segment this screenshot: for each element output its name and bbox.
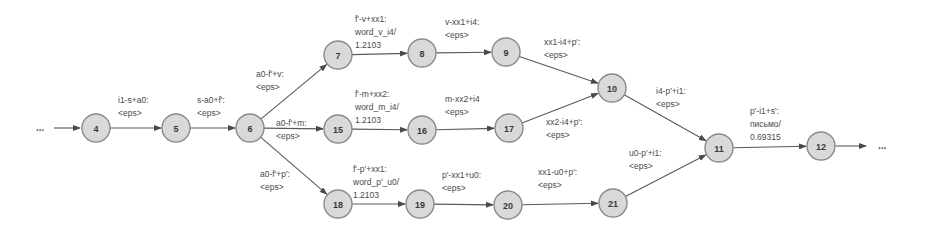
state-node-17: 17 (495, 114, 523, 142)
edge-label-7-8: f'-v+xx1:word_v_i4/1.2103 (354, 14, 397, 50)
state-node-18: 18 (324, 190, 352, 218)
state-label: 4 (93, 124, 98, 134)
end-ellipsis: ... (878, 140, 887, 151)
edge-20-21 (522, 203, 598, 204)
edge-label-19-20: p'-xx1+u0:<eps> (442, 170, 481, 193)
state-label: 15 (333, 125, 343, 135)
edge-label-line: p'-i1+s': (750, 106, 779, 116)
edge-label-line: word_p'_u0/ (352, 177, 400, 187)
edge-label-line: 1.2103 (353, 190, 379, 200)
edge-15-16 (352, 129, 407, 130)
edge-label-line: i1-s+a0: (118, 95, 148, 105)
edge-label-line: <eps> (445, 107, 469, 117)
state-node-21: 21 (599, 189, 627, 217)
state-label: 9 (503, 48, 508, 58)
edge-label-line: f'-p'+xx1: (353, 164, 387, 174)
edge-label-line: xx2-i4+p': (546, 117, 582, 127)
state-label: 16 (417, 126, 427, 136)
edge-label-line: <eps> (260, 182, 284, 192)
edge-label-line: a0-f'+m: (276, 118, 307, 128)
edge-label-line: <eps> (544, 50, 568, 60)
start-ellipsis: ... (36, 122, 45, 133)
edges (110, 52, 806, 205)
edge-label-6-18: a0-f'+p':<eps> (260, 169, 290, 192)
edge-label-line: xx1-u0+p': (538, 167, 577, 177)
edge-label-line: i4-p'+i1: (656, 86, 686, 96)
fst-diagram: ... i1-s+a0:<eps>s-a0+f':<eps>a0-f'+v:<e… (0, 0, 928, 237)
edge-label-line: письмо/ (750, 119, 782, 129)
edge-label-line: f'-m+xx2: (355, 89, 389, 99)
edge-label-line: word_m_i4/ (354, 102, 400, 112)
edge-label-line: <eps> (546, 130, 570, 140)
state-node-15: 15 (324, 115, 352, 143)
edge-label-line: m-xx2+i4 (445, 94, 480, 104)
state-node-16: 16 (408, 116, 436, 144)
state-node-12: 12 (807, 132, 835, 160)
state-node-20: 20 (494, 191, 522, 219)
state-node-7: 7 (324, 41, 352, 69)
edge-11-12 (733, 146, 806, 147)
edge-label-line: a0-f'+p': (260, 169, 290, 179)
state-label: 17 (504, 124, 514, 134)
edge-16-17 (436, 128, 494, 129)
edge-label-line: s-a0+f': (197, 95, 225, 105)
edge-label-15-16: f'-m+xx2:word_m_i4/1.2103 (354, 89, 400, 125)
state-label: 11 (714, 144, 724, 154)
edge-labels: i1-s+a0:<eps>s-a0+f':<eps>a0-f'+v:<eps>a… (118, 14, 782, 200)
edge-label-6-15: a0-f'+m:<eps> (276, 118, 307, 141)
edge-label-line: 0.69315 (750, 132, 781, 142)
state-label: 18 (333, 200, 343, 210)
edge-9-10 (519, 57, 598, 84)
edge-label-11-12: p'-i1+s':письмо/0.69315 (750, 106, 782, 142)
state-label: 7 (335, 51, 340, 61)
edge-label-line: p'-xx1+u0: (442, 170, 481, 180)
edge-label-line: <eps> (445, 30, 469, 40)
state-label: 21 (608, 199, 618, 209)
state-label: 12 (816, 142, 826, 152)
edge-label-8-9: v-xx1+i4:<eps> (445, 17, 479, 40)
edge-label-10-11: i4-p'+i1:<eps> (656, 86, 686, 109)
state-label: 5 (173, 124, 178, 134)
edge-label-line: <eps> (256, 82, 280, 92)
edge-label-line: <eps> (538, 180, 562, 190)
edge-label-line: v-xx1+i4: (445, 17, 479, 27)
edge-label-line: xx1-i4+p': (544, 37, 580, 47)
state-label: 19 (415, 200, 425, 210)
edge-label-line: 1.2103 (355, 115, 381, 125)
edge-6-15 (264, 128, 323, 129)
edge-label-line: a0-f'+v: (256, 69, 284, 79)
edge-label-line: u0-p'+i1: (629, 148, 662, 158)
state-node-10: 10 (598, 74, 626, 102)
edge-label-4-5: i1-s+a0:<eps> (118, 95, 148, 118)
state-label: 6 (247, 124, 252, 134)
state-node-11: 11 (705, 134, 733, 162)
edge-label-line: <eps> (629, 161, 653, 171)
edge-label-line: 1.2103 (355, 40, 381, 50)
edge-label-line: f'-v+xx1: (355, 14, 387, 24)
edge-label-20-21: xx1-u0+p':<eps> (538, 167, 577, 190)
state-node-5: 5 (162, 114, 190, 142)
state-label: 8 (419, 49, 424, 59)
edge-label-line: <eps> (656, 99, 680, 109)
edge-label-6-7: a0-f'+v:<eps> (256, 69, 284, 92)
state-label: 10 (607, 84, 617, 94)
state-node-4: 4 (82, 114, 110, 142)
edge-label-18-19: f'-p'+xx1:word_p'_u0/1.2103 (352, 164, 400, 200)
edge-7-8 (352, 53, 407, 54)
state-node-9: 9 (492, 38, 520, 66)
edge-19-20 (434, 204, 493, 205)
state-node-8: 8 (408, 39, 436, 67)
state-node-19: 19 (406, 190, 434, 218)
edge-label-line: <eps> (118, 108, 142, 118)
state-node-6: 6 (236, 114, 264, 142)
edge-8-9 (436, 52, 491, 53)
edge-label-9-10: xx1-i4+p':<eps> (544, 37, 580, 60)
edge-label-line: word_v_i4/ (354, 27, 397, 37)
edge-label-line: <eps> (442, 183, 466, 193)
edge-label-5-6: s-a0+f':<eps> (197, 95, 225, 118)
state-label: 20 (503, 201, 513, 211)
edge-label-16-17: m-xx2+i4<eps> (445, 94, 480, 117)
edge-label-17-10: xx2-i4+p':<eps> (546, 117, 582, 140)
edge-label-21-11: u0-p'+i1:<eps> (629, 148, 662, 171)
edge-label-line: <eps> (276, 131, 300, 141)
